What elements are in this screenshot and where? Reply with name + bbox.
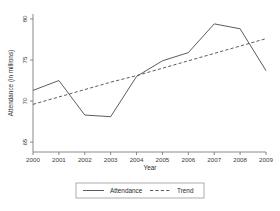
x-tick-label: 2003 [104, 156, 118, 163]
x-tick-label: 2006 [181, 156, 195, 163]
x-tick-label: 2000 [26, 156, 40, 163]
x-tick-label: 2004 [130, 156, 144, 163]
y-tick-label: 80 [21, 15, 28, 22]
chart-container: 65707580 2000200120022003200420052006200… [0, 0, 280, 211]
x-axis-title: Year [144, 164, 158, 171]
y-axis-title: Attendance (in millions) [7, 50, 15, 116]
legend-label-attendance: Attendance [110, 187, 143, 194]
y-axis-ticks: 65707580 [21, 15, 33, 146]
x-axis-ticks: 2000200120022003200420052006200720082009 [26, 152, 273, 163]
line-chart: 65707580 2000200120022003200420052006200… [0, 0, 280, 211]
legend-label-trend: Trend [177, 187, 194, 194]
series-line-trend [33, 39, 266, 105]
x-tick-label: 2007 [207, 156, 221, 163]
chart-legend: Attendance Trend [76, 183, 204, 198]
x-tick-label: 2002 [78, 156, 92, 163]
x-tick-label: 2005 [156, 156, 170, 163]
x-tick-label: 2008 [233, 156, 247, 163]
x-tick-label: 2001 [52, 156, 66, 163]
y-tick-label: 70 [21, 97, 28, 104]
series-line-attendance [33, 24, 266, 117]
y-tick-label: 75 [21, 56, 28, 63]
x-tick-label: 2009 [259, 156, 273, 163]
y-tick-label: 65 [21, 138, 28, 145]
